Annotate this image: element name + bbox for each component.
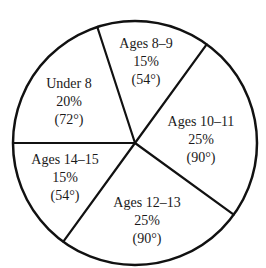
slice-label: Ages 14–15: [31, 152, 98, 167]
slice-percent: 20%: [56, 94, 82, 109]
slice-degrees: (72°): [55, 112, 84, 128]
slice-percent: 15%: [52, 170, 78, 185]
slice-degrees: (54°): [51, 188, 80, 204]
slice-label: Ages 8–9: [119, 36, 172, 51]
slice-percent: 25%: [134, 213, 160, 228]
slice-degrees: (90°): [187, 150, 216, 166]
pie-chart: Under 8 20% (72°) Ages 8–9 15% (54°) Age…: [0, 0, 266, 268]
slice-degrees: (54°): [132, 72, 161, 88]
slice-percent: 15%: [133, 54, 159, 69]
slice-label: Ages 12–13: [113, 195, 180, 210]
slice-label: Under 8: [46, 76, 92, 91]
slice-degrees: (90°): [133, 231, 162, 247]
slice-percent: 25%: [188, 132, 214, 147]
slice-label: Ages 10–11: [168, 114, 235, 129]
